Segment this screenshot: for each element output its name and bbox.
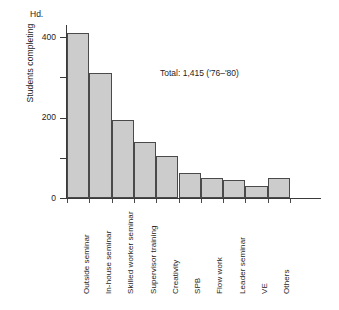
bar-8: [245, 186, 267, 198]
total-annotation: Total: 1,415 ('76–'80): [160, 68, 239, 78]
x-label-8: VE: [260, 283, 269, 294]
y-tick-100: [60, 158, 67, 159]
bar-series: [67, 25, 290, 198]
x-tick-10: [290, 199, 291, 203]
bar-4: [156, 156, 178, 198]
y-tick-200: [60, 118, 67, 119]
x-tick-4: [156, 199, 157, 203]
x-tick-8: [245, 199, 246, 203]
y-tick-label-400: 400: [16, 33, 56, 42]
x-label-6: Flow work: [215, 257, 224, 294]
y-tick-400: [60, 37, 67, 38]
bar-3: [134, 142, 156, 198]
y-tick-0: [60, 198, 67, 199]
y-tick-label-0: 0: [16, 194, 56, 203]
bar-2: [112, 120, 134, 198]
x-label-0: Outside seminar: [82, 234, 91, 294]
x-label-5: SPB: [193, 278, 202, 294]
x-tick-6: [201, 199, 202, 203]
x-axis-line: [66, 198, 321, 199]
x-tick-0: [67, 199, 68, 203]
y-tick-label-200: 200: [16, 113, 56, 122]
x-tick-9: [268, 199, 269, 203]
x-tick-1: [89, 199, 90, 203]
bar-1: [89, 73, 111, 198]
x-label-3: Supervisor training: [149, 225, 158, 294]
bar-5: [179, 173, 201, 198]
x-label-2: Skilled worker seminar: [126, 211, 135, 294]
x-label-1: In-house seminar: [104, 231, 113, 294]
bar-9: [268, 178, 290, 198]
bar-7: [223, 180, 245, 198]
y-axis-unit-label: Hd.: [30, 9, 43, 19]
bar-0: [67, 33, 89, 198]
y-tick-300: [60, 77, 67, 78]
x-tick-2: [112, 199, 113, 203]
bar-6: [201, 178, 223, 198]
x-label-7: Leader seminar: [238, 237, 247, 294]
x-tick-7: [223, 199, 224, 203]
x-label-9: Others: [282, 269, 291, 294]
x-label-4: Creativity: [171, 260, 180, 294]
x-tick-3: [134, 199, 135, 203]
x-tick-5: [179, 199, 180, 203]
bar-chart: Students completing Hd. 0200400 Total: 1…: [0, 0, 339, 310]
